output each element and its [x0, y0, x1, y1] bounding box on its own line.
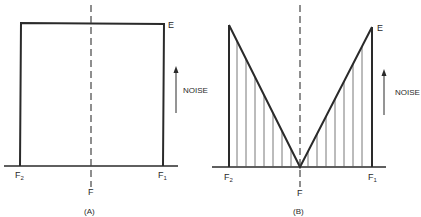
noise-diagram: NOISE E F2 F1 F (A) — [0, 0, 421, 217]
panel-a-f2-label: F2 — [15, 170, 25, 181]
panel-b-f1-label: F1 — [368, 172, 378, 183]
panel-b: NOISE E F2 F1 F (B) — [212, 5, 420, 216]
panel-a: NOISE E F2 F1 F (A) — [4, 5, 208, 216]
panel-a-f-center-label: F — [88, 187, 94, 197]
panel-b-noise-arrow — [382, 69, 387, 115]
panel-a-rectangular-profile — [20, 23, 164, 166]
panel-a-caption: (A) — [84, 207, 95, 216]
panel-a-noise-arrow — [174, 66, 179, 113]
panel-b-f-center-label: F — [297, 188, 303, 198]
panel-b-e-label: E — [377, 23, 383, 33]
panel-a-f1-label: F1 — [158, 170, 168, 181]
panel-a-noise-label: NOISE — [183, 86, 208, 95]
panel-b-caption: (B) — [293, 207, 304, 216]
panel-a-e-label: E — [168, 20, 174, 30]
panel-b-f2-label: F2 — [224, 172, 234, 183]
panel-b-noise-label: NOISE — [395, 88, 420, 97]
